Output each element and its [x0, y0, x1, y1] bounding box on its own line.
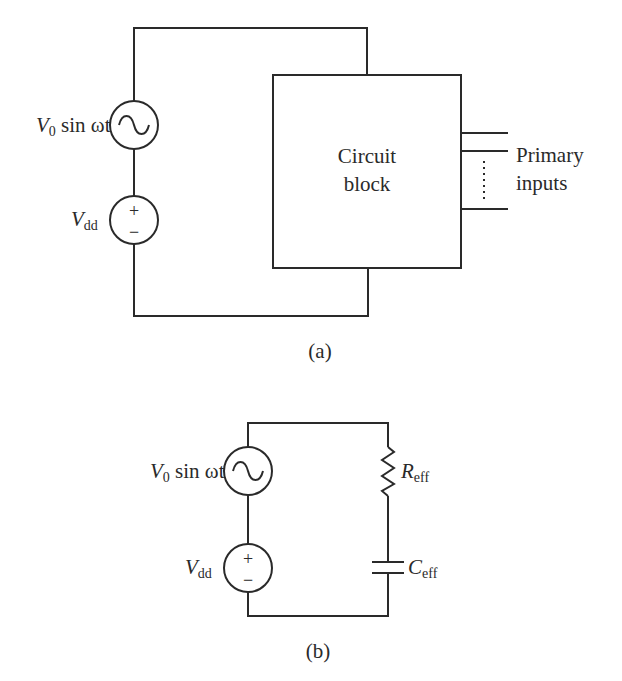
caption-a: (a) — [308, 339, 331, 363]
dc-source-a-label: Vdd — [71, 207, 98, 233]
circuit-block-label-line2: block — [344, 172, 391, 196]
minus-sign: − — [129, 222, 139, 242]
resistor-label: Reff — [400, 459, 429, 485]
minus-sign: − — [243, 570, 253, 590]
circuit-diagram: V0 sin ωt Vdd + − Circuit block Primary … — [0, 0, 622, 681]
ac-source-b-label: V0 sin ωt — [150, 459, 225, 485]
dc-source-b-label: Vdd — [185, 555, 212, 581]
figure-a-wires — [134, 28, 368, 316]
capacitor-icon — [372, 562, 404, 573]
sine-wave-icon — [119, 116, 149, 134]
plus-sign: + — [243, 549, 253, 569]
figure-b-wires — [248, 423, 388, 616]
circuit-block-label-line1: Circuit — [338, 144, 396, 168]
caption-b: (b) — [306, 639, 331, 663]
primary-inputs-label-line2: inputs — [516, 171, 567, 195]
resistor-icon — [382, 447, 394, 496]
primary-inputs-label-line1: Primary — [516, 143, 584, 167]
sine-wave-icon — [233, 462, 263, 480]
capacitor-label: Ceff — [408, 555, 438, 581]
plus-sign: + — [129, 201, 139, 221]
ac-source-a-label: V0 sin ωt — [36, 113, 111, 139]
primary-input-lines — [461, 133, 508, 209]
